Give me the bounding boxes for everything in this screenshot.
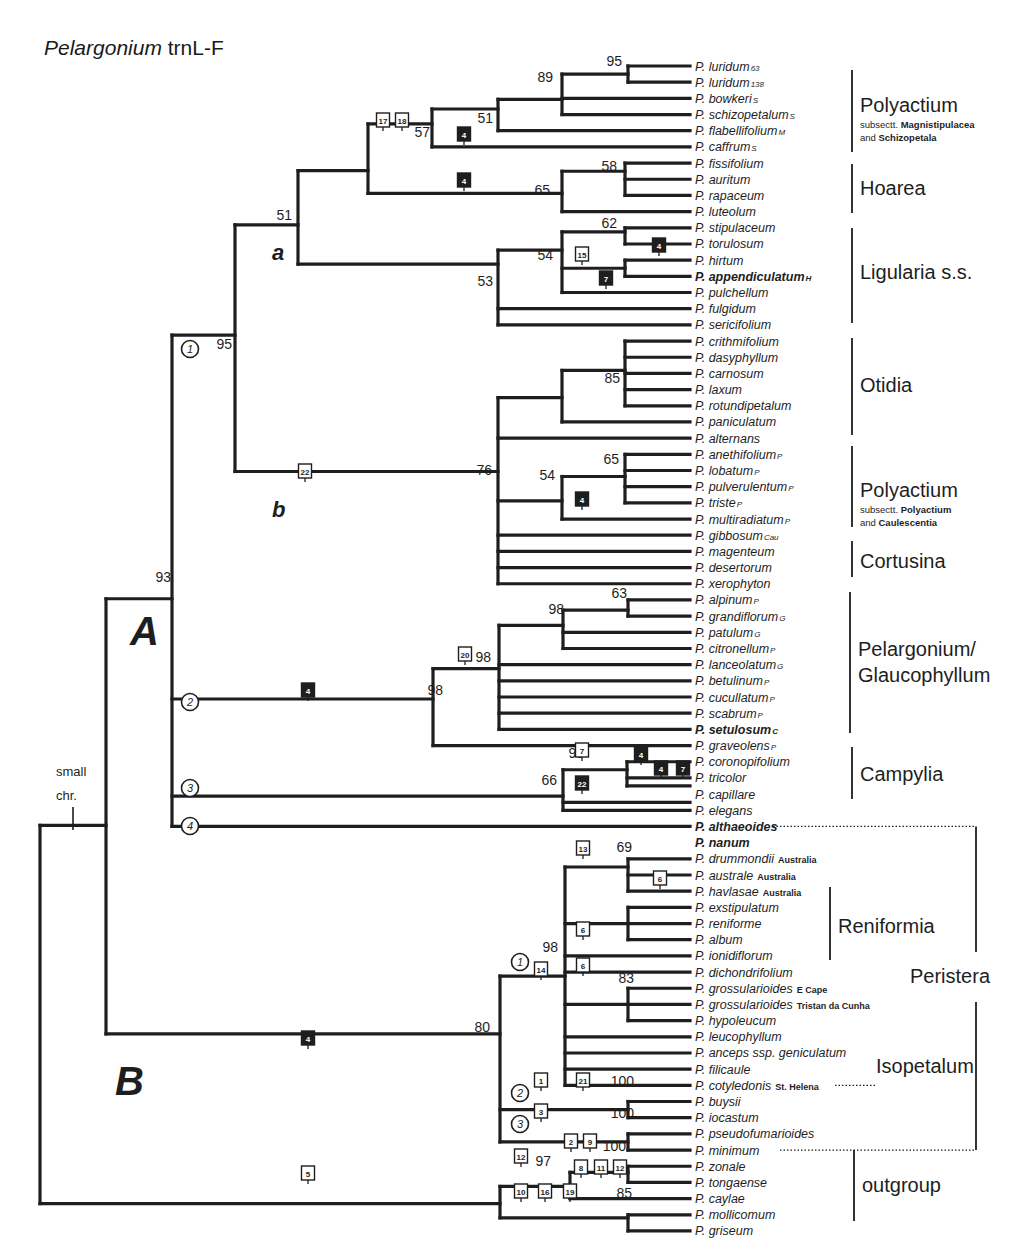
- support-value: 62: [601, 215, 617, 231]
- taxon-name: P. anethifolium: [695, 448, 776, 462]
- taxon-label: P. griseum: [695, 1224, 753, 1238]
- taxon-label: P. laxum: [695, 383, 742, 397]
- taxon-label: P. gibbosumCau: [695, 529, 779, 543]
- marker-number: 18: [398, 117, 407, 126]
- taxon-label: P. anethifoliumP: [695, 448, 783, 462]
- taxon-label: P. bowkeriS: [695, 92, 759, 106]
- taxon-name: P. caylae: [695, 1192, 745, 1206]
- circled-node: 4: [182, 818, 199, 835]
- support-value: 57: [414, 124, 430, 140]
- taxon-name: P. setulosum: [695, 723, 771, 737]
- taxon-suffix: P: [769, 695, 775, 704]
- open-marker: 20: [459, 647, 472, 665]
- taxon-label: P. schizopetalumS: [695, 108, 796, 122]
- marker-number: 4: [462, 131, 467, 140]
- marker-number: 4: [462, 177, 467, 186]
- taxon-name: P. pulverulentum: [695, 480, 787, 494]
- taxon-label: P. ionidiflorum: [695, 949, 773, 963]
- taxon-name: P. drummondii: [695, 852, 775, 866]
- taxon-name: P. rotundipetalum: [695, 399, 791, 413]
- taxon-label: P. magenteum: [695, 545, 775, 559]
- circled-node: 2: [512, 1085, 529, 1102]
- marker-number: 6: [581, 962, 586, 971]
- taxon-name: P. hypoleucum: [695, 1014, 776, 1028]
- taxon-label: P. luridum63: [695, 60, 760, 74]
- taxon-label: P. hypoleucum: [695, 1014, 776, 1028]
- taxon-labels: P. luridum63P. luridum138P. bowkeriSP. s…: [695, 60, 871, 1239]
- taxon-suffix: P: [754, 468, 760, 477]
- taxon-name: P. lanceolatum: [695, 658, 776, 672]
- support-value: 95: [606, 53, 622, 69]
- taxon-name: P. griseum: [695, 1224, 753, 1238]
- support-value: 97: [535, 1153, 551, 1169]
- taxon-name: P. elegans: [695, 804, 752, 818]
- taxon-name: P. multiradiatum: [695, 513, 784, 527]
- clade-name: Hoarea: [860, 177, 926, 199]
- node-number: 3: [517, 1118, 524, 1130]
- taxon-label: P. scabrumP: [695, 707, 764, 721]
- taxon-label: P. australeAustralia: [695, 869, 797, 883]
- taxon-label: P. dichondrifolium: [695, 966, 793, 980]
- support-value: 83: [618, 970, 634, 986]
- clade-name-2: Glaucophyllum: [858, 664, 990, 686]
- support-value: 85: [604, 370, 620, 386]
- support-value: 98: [548, 601, 564, 617]
- taxon-suffix: S: [751, 144, 757, 153]
- open-marker: 5: [302, 1166, 315, 1184]
- taxon-label: P. tristeP: [695, 496, 743, 510]
- support-value: 80: [474, 1019, 490, 1035]
- filled-marker: 7: [600, 271, 613, 289]
- taxon-name: P. althaeoides: [695, 820, 777, 834]
- clade-name: Ligularia s.s.: [860, 261, 972, 283]
- sub-bold: Caulescentia: [879, 517, 938, 528]
- taxon-name: P. grossularioides: [695, 998, 793, 1012]
- taxon-name: P. auritum: [695, 173, 750, 187]
- support-value: 66: [541, 772, 557, 788]
- marker-number: 7: [580, 747, 585, 756]
- circled-node: 1: [512, 954, 529, 971]
- open-marker: 12: [515, 1149, 528, 1167]
- taxon-label: P. buysii: [695, 1095, 742, 1109]
- support-value: 65: [603, 451, 619, 467]
- support-value: 95: [216, 336, 232, 352]
- small-chr-label: chr.: [56, 788, 77, 803]
- support-value: 93: [155, 569, 171, 585]
- marker-number: 16: [541, 1188, 550, 1197]
- taxon-label: P. citronellumP: [695, 642, 776, 656]
- taxon-suffix: P: [788, 484, 794, 493]
- open-marker: 8: [575, 1160, 588, 1178]
- open-marker: 16: [539, 1184, 552, 1202]
- taxon-name: P. scabrum: [695, 707, 757, 721]
- taxon-name: P. dasyphyllum: [695, 351, 778, 365]
- filled-marker: 4: [458, 127, 471, 145]
- taxon-name: P. exstipulatum: [695, 901, 779, 915]
- taxon-name: P. lobatum: [695, 464, 753, 478]
- marker-number: 4: [659, 765, 664, 774]
- taxon-label: P. luridum138: [695, 76, 765, 90]
- open-marker: 6: [654, 871, 667, 889]
- taxon-name: P. rapaceum: [695, 189, 764, 203]
- sub-bold: Schizopetala: [879, 132, 938, 143]
- marker-number: 5: [306, 1170, 311, 1179]
- taxon-name: P. torulosum: [695, 237, 764, 251]
- taxon-label: P. filicaule: [695, 1063, 750, 1077]
- filled-marker: 4: [653, 238, 666, 256]
- taxon-label: P. pseudofumarioides: [695, 1127, 814, 1141]
- clade-name: Polyactium: [860, 479, 958, 501]
- support-value: 63: [611, 585, 627, 601]
- taxon-label: P. paniculatum: [695, 415, 776, 429]
- taxon-name: P. australe: [695, 869, 753, 883]
- clade-letter: a: [272, 240, 284, 265]
- open-marker: 10: [515, 1184, 528, 1202]
- support-value: 89: [537, 69, 553, 85]
- taxon-label: P. patulumG: [695, 626, 760, 640]
- taxon-name: P. schizopetalum: [695, 108, 789, 122]
- marker-number: 6: [581, 926, 586, 935]
- taxon-name: P. alpinum: [695, 593, 752, 607]
- taxon-name: P. tricolor: [695, 771, 747, 785]
- marker-number: 13: [579, 845, 588, 854]
- marker-number: 4: [657, 242, 662, 251]
- taxon-name: P. crithmifolium: [695, 335, 779, 349]
- circled-node: 2: [182, 694, 199, 711]
- support-value: 51: [477, 110, 493, 126]
